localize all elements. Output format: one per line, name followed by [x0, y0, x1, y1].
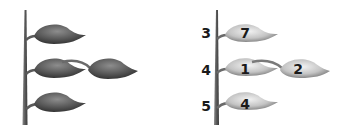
leaf-label-top: 7 [240, 26, 250, 40]
leaf-label-middle: 1 [240, 62, 250, 76]
leaf-label-offshoot: 2 [293, 62, 303, 76]
node-label-bottom: 5 [201, 99, 211, 113]
left-plant [23, 10, 139, 125]
leaf-label-bottom: 4 [240, 97, 250, 111]
leaf-top [34, 25, 86, 44]
leaf-bottom [225, 92, 278, 110]
leaf-offshoot [280, 59, 330, 78]
leaf-top [225, 24, 278, 42]
node-label-middle: 4 [201, 63, 211, 77]
leaf-offshoot [88, 59, 138, 79]
leaf-bottom [34, 93, 86, 112]
node-label-top: 3 [201, 26, 211, 40]
right-plant [214, 10, 330, 125]
